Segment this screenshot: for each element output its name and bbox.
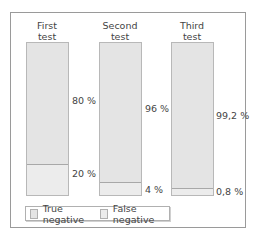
bar-third-test bbox=[171, 42, 214, 196]
title-line: test bbox=[162, 31, 222, 42]
bar-title-third: Third test bbox=[162, 20, 222, 42]
label-true-negative-first: 80 % bbox=[72, 95, 96, 106]
label-false-negative-second: 4 % bbox=[145, 184, 163, 195]
title-line: test bbox=[17, 31, 77, 42]
legend: True negative False negative bbox=[25, 206, 170, 221]
legend-label: True negative bbox=[43, 203, 89, 225]
label-false-negative-first: 20 % bbox=[72, 168, 96, 179]
legend-swatch-icon bbox=[100, 209, 108, 219]
bar-segment-false-negative bbox=[172, 188, 213, 195]
title-line: Second bbox=[90, 20, 150, 31]
label-true-negative-second: 96 % bbox=[145, 103, 169, 114]
title-line: test bbox=[90, 31, 150, 42]
label-false-negative-third: 0,8 % bbox=[216, 186, 243, 197]
bar-second-test bbox=[99, 42, 142, 196]
bar-segment-false-negative bbox=[27, 164, 68, 195]
legend-item-true-negative: True negative bbox=[30, 203, 88, 225]
label-true-negative-third: 99,2 % bbox=[216, 110, 249, 121]
legend-swatch-icon bbox=[30, 209, 38, 219]
bar-segment-false-negative bbox=[100, 182, 141, 195]
title-line: Third bbox=[162, 20, 222, 31]
legend-label: False negative bbox=[113, 203, 161, 225]
bar-title-second: Second test bbox=[90, 20, 150, 42]
bar-first-test bbox=[26, 42, 69, 196]
title-line: First bbox=[17, 20, 77, 31]
bar-title-first: First test bbox=[17, 20, 77, 42]
legend-item-false-negative: False negative bbox=[100, 203, 161, 225]
